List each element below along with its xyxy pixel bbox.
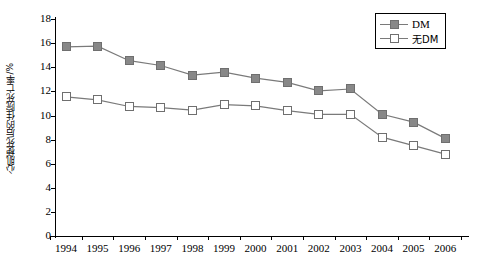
data-point-marker bbox=[125, 56, 134, 65]
legend-label-nodm: 无DM bbox=[412, 31, 438, 46]
legend-swatch-dm-icon bbox=[380, 19, 408, 30]
data-point-marker bbox=[220, 100, 229, 109]
chart-legend: DM 无DM bbox=[375, 13, 446, 49]
data-point-marker bbox=[156, 61, 165, 70]
data-point-marker bbox=[441, 150, 450, 159]
data-point-marker bbox=[251, 74, 260, 83]
data-point-marker bbox=[314, 110, 323, 119]
data-point-marker bbox=[441, 134, 450, 143]
data-point-marker bbox=[378, 133, 387, 142]
data-point-marker bbox=[93, 42, 102, 51]
series-line-dm bbox=[66, 46, 445, 138]
data-point-marker bbox=[283, 106, 292, 115]
data-point-marker bbox=[93, 95, 102, 104]
legend-label-dm: DM bbox=[412, 18, 430, 30]
data-point-marker bbox=[346, 84, 355, 93]
data-point-marker bbox=[378, 110, 387, 119]
legend-swatch-nodm-icon bbox=[380, 33, 408, 44]
data-point-marker bbox=[346, 110, 355, 119]
data-point-marker bbox=[188, 71, 197, 80]
data-point-marker bbox=[62, 92, 71, 101]
legend-item-nodm[interactable]: 无DM bbox=[380, 31, 438, 45]
data-point-marker bbox=[283, 78, 292, 87]
data-point-marker bbox=[156, 103, 165, 112]
data-point-marker bbox=[409, 141, 418, 150]
data-point-marker bbox=[125, 102, 134, 111]
data-point-marker bbox=[62, 42, 71, 51]
chart-container: 心肌梗死后的住院死亡率/% 024681012141618 1994199519… bbox=[0, 0, 485, 266]
data-point-marker bbox=[188, 106, 197, 115]
legend-item-dm[interactable]: DM bbox=[380, 17, 438, 31]
data-point-marker bbox=[220, 68, 229, 77]
data-point-marker bbox=[251, 101, 260, 110]
data-point-marker bbox=[314, 86, 323, 95]
data-point-marker bbox=[409, 118, 418, 127]
